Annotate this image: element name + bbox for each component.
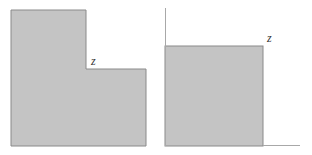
left-corner-label-z: z [91,55,96,67]
right-figure [165,8,300,146]
diagram-canvas [0,0,312,155]
square-region [165,46,263,146]
l-shape-region [11,10,146,146]
right-corner-label-z: z [267,32,272,44]
left-figure [11,10,146,146]
